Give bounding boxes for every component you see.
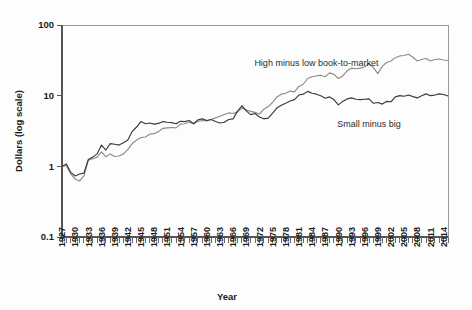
x-tick-label: 2005 [399, 227, 409, 247]
line-chart: 1001010.1 192719301933193619391942194519… [0, 0, 472, 310]
x-axis-title: Year [217, 291, 237, 302]
x-tick-label: 1936 [97, 227, 107, 247]
x-tick-label: 1957 [189, 227, 199, 247]
annotation-small-minus-big: Small minus big [337, 119, 401, 129]
x-tick-label: 1990 [334, 227, 344, 247]
x-tick-label: 1981 [294, 227, 304, 247]
series-lines [62, 54, 448, 181]
x-tick-label: 1927 [57, 227, 67, 247]
x-tick-label: 2014 [439, 227, 449, 247]
x-tick-label: 1963 [215, 227, 225, 247]
x-tick-label: 1999 [373, 227, 383, 247]
x-tick-label: 1993 [347, 227, 357, 247]
y-axis: 1001010.1 [38, 19, 62, 242]
y-tick-label: 100 [38, 19, 54, 30]
plot-frame [62, 25, 448, 237]
y-tick-label: 1 [49, 161, 55, 172]
chart-figure: 1001010.1 192719301933193619391942194519… [0, 0, 472, 310]
y-axis-title: Dollars (log scale) [13, 90, 24, 172]
plot-border [62, 25, 448, 237]
x-tick-label: 1996 [360, 227, 370, 247]
x-tick-label: 2011 [426, 227, 436, 247]
x-tick-label: 1969 [241, 227, 251, 247]
x-tick-label: 2008 [412, 227, 422, 247]
y-tick-label: 0.1 [41, 231, 55, 242]
x-tick-label: 1945 [136, 227, 146, 247]
x-tick-label: 1978 [281, 227, 291, 247]
x-tick-label: 1954 [176, 227, 186, 247]
x-tick-label: 2002 [386, 227, 396, 247]
series-line-high-minus-low [62, 54, 448, 181]
annotation-high-minus-low: High minus low book-to-market [254, 58, 379, 68]
x-tick-label: 1966 [228, 227, 238, 247]
x-tick-label: 1984 [307, 227, 317, 247]
axis-titles: YearDollars (log scale) [13, 90, 237, 302]
x-tick-label: 1951 [162, 227, 172, 247]
series-annotations: High minus low book-to-marketSmall minus… [254, 58, 400, 129]
series-line-small-minus-big [62, 91, 448, 176]
x-tick-label: 1948 [149, 227, 159, 247]
x-tick-label: 1933 [84, 227, 94, 247]
x-tick-label: 1972 [255, 227, 265, 247]
x-tick-label: 1975 [268, 227, 278, 247]
y-tick-label: 10 [43, 90, 54, 101]
x-tick-label: 1942 [123, 227, 133, 247]
x-tick-label: 1930 [70, 227, 80, 247]
x-tick-label: 1987 [320, 227, 330, 247]
x-axis: 1927193019331936193919421945194819511954… [57, 227, 449, 247]
x-tick-label: 1960 [202, 227, 212, 247]
x-tick-label: 1939 [110, 227, 120, 247]
